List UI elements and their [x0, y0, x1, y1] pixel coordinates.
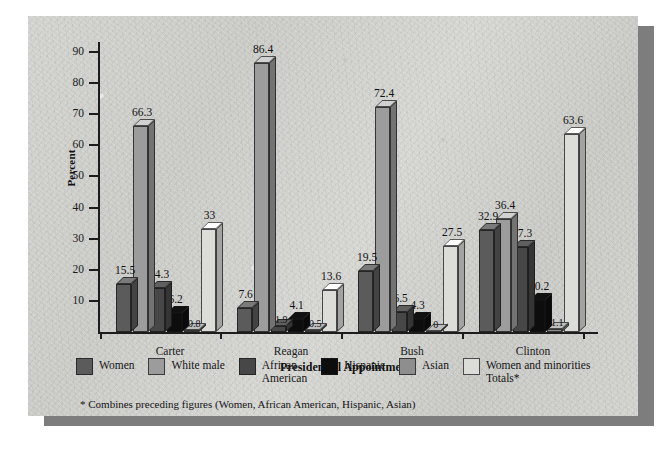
- bar-value-label: 15.5: [115, 264, 135, 276]
- bar-value-label: 13.6: [321, 270, 341, 282]
- x-axis-group-separator: [583, 332, 585, 339]
- y-axis-tick: 10: [89, 300, 98, 302]
- bar-value-label: 0: [433, 319, 438, 330]
- bar-side-face: [337, 283, 344, 332]
- bar-front-face: [547, 329, 562, 332]
- bar-front-face: [564, 134, 579, 332]
- bar-front-face: [443, 246, 458, 332]
- legend-item-white-male[interactable]: White male: [148, 358, 224, 375]
- bar-value-label: 19.5: [357, 251, 377, 263]
- legend-swatch: [148, 358, 165, 375]
- bar-group-clinton: 32.936.427.310.21.163.6Clinton: [479, 40, 587, 332]
- y-axis-tick: 60: [89, 144, 98, 146]
- bar-group-carter: 15.566.314.36.20.833Carter: [116, 40, 224, 332]
- legend-swatch: [463, 358, 480, 375]
- bar-side-face: [458, 240, 465, 332]
- bar-front-face: [254, 63, 269, 332]
- bar-value-label: 63.6: [563, 114, 583, 126]
- bar-carter-asian: 0.8: [184, 330, 199, 332]
- bar-side-face: [528, 241, 535, 332]
- y-axis-tick-label: 40: [73, 201, 85, 213]
- legend-label: White male: [171, 358, 224, 372]
- legend-label: Women and minorities Totals*: [486, 358, 590, 384]
- y-axis-line: [98, 42, 100, 334]
- legend-swatch: [321, 358, 338, 375]
- bar-bush-women: 19.5: [358, 271, 373, 332]
- legend-item-asian[interactable]: Asian: [399, 358, 449, 375]
- legend-swatch: [239, 358, 256, 375]
- bar-value-label: 1.9: [275, 314, 288, 325]
- bar-side-face: [511, 212, 518, 332]
- y-axis-tick-label: 10: [73, 294, 85, 306]
- y-axis-tick: 40: [89, 207, 98, 209]
- legend-label: African American: [262, 358, 307, 384]
- bar-value-label: 4.1: [289, 299, 303, 311]
- y-axis-tick-label: 60: [73, 138, 85, 150]
- legend-swatch: [399, 358, 416, 375]
- bar-front-face: [358, 271, 373, 332]
- bar-front-face: [237, 308, 252, 332]
- bar-side-face: [373, 265, 380, 332]
- x-axis-line: [98, 332, 598, 334]
- y-axis-tick-label: 70: [73, 107, 85, 119]
- x-axis-group-label: Clinton: [479, 345, 587, 357]
- legend-swatch: [76, 358, 93, 375]
- bar-side-face: [494, 223, 501, 332]
- y-axis-tick: 20: [89, 269, 98, 271]
- bar-group-reagan: 7.686.41.94.10.513.6Reagan: [237, 40, 345, 332]
- legend-label: Women: [99, 358, 134, 372]
- bar-side-face: [131, 277, 138, 332]
- x-axis-group-separator: [341, 332, 343, 339]
- bar-front-face: [116, 284, 131, 332]
- bar-clinton-women: 32.9: [479, 230, 494, 332]
- legend-item-women-and-minorities-totals*[interactable]: Women and minorities Totals*: [463, 358, 590, 384]
- legend-item-african-american[interactable]: African American: [239, 358, 307, 384]
- y-axis-tick-label: 80: [73, 76, 85, 88]
- legend-label: Asian: [422, 358, 449, 372]
- bar-side-face: [269, 57, 276, 332]
- bar-value-label: 33: [204, 209, 216, 221]
- bar-side-face: [216, 223, 223, 332]
- plot-area: Percent Presidential Appointments 102030…: [98, 42, 598, 334]
- bar-value-label: 86.4: [253, 43, 273, 55]
- y-axis-tick-label: 20: [73, 263, 85, 275]
- y-axis-tick-label: 90: [73, 45, 85, 57]
- x-axis-group-label: Bush: [358, 345, 466, 357]
- x-axis-group-separator: [100, 332, 102, 339]
- bar-clinton-women-and-minorities-totals*: 63.6: [564, 134, 579, 332]
- chart-panel: Percent Presidential Appointments 102030…: [28, 16, 638, 416]
- bar-side-face: [148, 119, 155, 332]
- bar-bush-asian: 0: [426, 331, 441, 333]
- bar-value-label: 7.6: [238, 288, 252, 300]
- bar-carter-women-and-minorities-totals*: 33: [201, 229, 216, 332]
- legend-item-women[interactable]: Women: [76, 358, 134, 375]
- bar-front-face: [305, 330, 320, 332]
- legend-item-hispanic[interactable]: Hispanic: [321, 358, 385, 375]
- x-axis-group-separator: [220, 332, 222, 339]
- x-axis-group-label: Reagan: [237, 345, 345, 357]
- y-axis-tick: 70: [89, 113, 98, 115]
- y-axis-tick: 50: [89, 175, 98, 177]
- bar-value-label: 0.8: [188, 318, 201, 329]
- bar-value-label: 32.9: [478, 210, 498, 222]
- bar-value-label: 66.3: [132, 106, 152, 118]
- bar-front-face: [479, 230, 494, 332]
- bar-front-face: [201, 229, 216, 332]
- bar-side-face: [579, 128, 586, 332]
- legend-footnote: * Combines preceding figures (Women, Afr…: [80, 398, 415, 410]
- y-axis-tick: 90: [89, 51, 98, 53]
- legend-label: Hispanic: [344, 358, 385, 372]
- bar-group-bush: 19.572.46.54.3027.5Bush: [358, 40, 466, 332]
- y-axis-tick-label: 30: [73, 232, 85, 244]
- y-axis-tick: 80: [89, 82, 98, 84]
- y-axis-tick: 30: [89, 238, 98, 240]
- y-axis-tick-label: 50: [73, 169, 85, 181]
- chart-legend: WomenWhite maleAfrican AmericanHispanicA…: [76, 358, 616, 384]
- bar-bush-women-and-minorities-totals*: 27.5: [443, 246, 458, 332]
- x-axis-group-label: Carter: [116, 345, 224, 357]
- bar-clinton-asian: 1.1: [547, 329, 562, 332]
- bar-reagan-white-male: 86.4: [254, 63, 269, 332]
- bar-carter-women: 15.5: [116, 284, 131, 332]
- bar-reagan-women: 7.6: [237, 308, 252, 332]
- bar-value-label: 72.4: [374, 87, 394, 99]
